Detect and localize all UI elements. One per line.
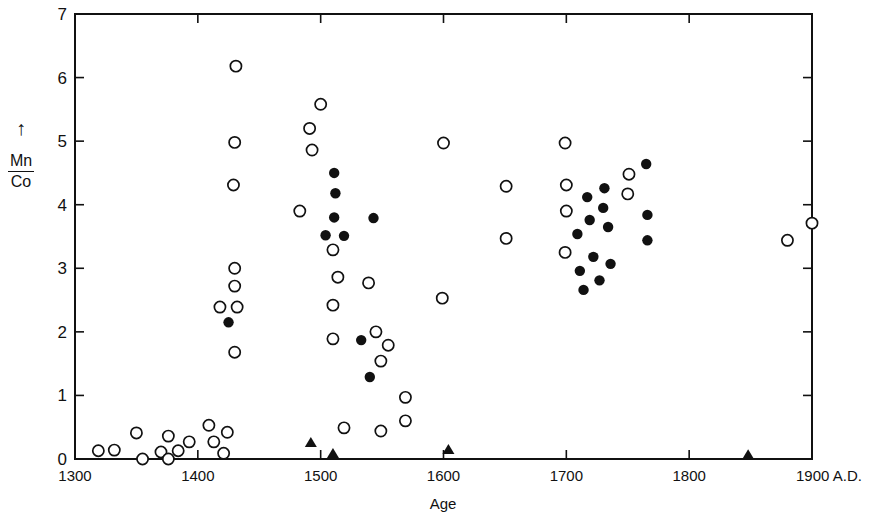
open-circle-point [560, 247, 571, 258]
open-circle-point [109, 445, 120, 456]
open-circle-point [229, 347, 240, 358]
filled-circle-point [356, 335, 366, 345]
open-circle-point [623, 169, 634, 180]
open-circle-point [327, 244, 338, 255]
open-circle-point [363, 277, 374, 288]
x-tick-label: 1300 [58, 467, 91, 484]
open-circle-point [229, 137, 240, 148]
open-circle-point [383, 340, 394, 351]
filled-circle-point [582, 192, 592, 202]
open-circle-point [437, 293, 448, 304]
open-circle-point [375, 356, 386, 367]
open-circle-point [228, 179, 239, 190]
filled-circle-point [598, 203, 608, 213]
filled-circle-point [588, 252, 598, 262]
filled-circle-point [329, 168, 339, 178]
open-circle-point [232, 301, 243, 312]
open-circle-point [375, 425, 386, 436]
y-tick-label: 3 [58, 259, 67, 278]
filled-circle-point [642, 210, 652, 220]
open-circle-point [173, 445, 184, 456]
triangle-point [327, 448, 339, 458]
filled-circle-point [599, 183, 609, 193]
open-circle-point [163, 431, 174, 442]
x-tick-label: 1400 [181, 467, 214, 484]
open-circle-point [501, 233, 512, 244]
filled-circle-point [223, 317, 233, 327]
x-tick-label: 1900 A.D. [796, 467, 862, 484]
open-circle-point [306, 144, 317, 155]
open-circle-point [229, 263, 240, 274]
filled-circle-point [572, 229, 582, 239]
y-tick-label: 2 [58, 323, 67, 342]
triangle-point [305, 437, 317, 447]
filled-circle-point [642, 235, 652, 245]
open-circle-point [214, 301, 225, 312]
open-circle-point [622, 188, 633, 199]
y-tick-label: 5 [58, 132, 67, 151]
x-tick-label: 1500 [304, 467, 337, 484]
open-circle-point [561, 205, 572, 216]
data-points [93, 61, 818, 465]
open-circle-point [230, 61, 241, 72]
filled-circle-point [368, 213, 378, 223]
filled-circle-point [575, 266, 585, 276]
open-circle-point [400, 415, 411, 426]
open-circle-point [229, 280, 240, 291]
open-circle-point [327, 300, 338, 311]
open-circle-point [304, 123, 315, 134]
filled-circle-point [578, 285, 588, 295]
x-tick-label: 1600 [427, 467, 460, 484]
y-tick-labels: 01234567 [58, 5, 67, 469]
open-circle-point [137, 453, 148, 464]
y-tick-label: 1 [58, 386, 67, 405]
open-circle-point [438, 137, 449, 148]
open-circle-point [315, 99, 326, 110]
axis-ticks [75, 14, 812, 459]
filled-circle-point [594, 275, 604, 285]
open-circle-point [400, 392, 411, 403]
filled-circle-point [584, 215, 594, 225]
triangle-point [442, 444, 454, 454]
filled-circle-point [330, 188, 340, 198]
open-circle-point [338, 422, 349, 433]
filled-circle-point [603, 222, 613, 232]
filled-circle-point [605, 259, 615, 269]
open-circle-point [208, 436, 219, 447]
y-tick-label: 6 [58, 69, 67, 88]
open-circle-point [501, 181, 512, 192]
y-tick-label: 7 [58, 5, 67, 24]
filled-circle-point [641, 159, 651, 169]
x-tick-label: 1800 [672, 467, 705, 484]
open-circle-point [184, 436, 195, 447]
filled-circle-point [339, 231, 349, 241]
open-circle-point [93, 445, 104, 456]
open-circle-point [560, 137, 571, 148]
plot-border [75, 14, 812, 459]
open-circle-point [294, 205, 305, 216]
plot-frame [75, 14, 812, 459]
filled-circle-point [329, 212, 339, 222]
open-circle-point [327, 333, 338, 344]
open-circle-point [222, 427, 233, 438]
open-circle-point [806, 218, 817, 229]
open-circle-point [131, 427, 142, 438]
open-circle-point [370, 326, 381, 337]
filled-circle-point [365, 372, 375, 382]
x-tick-label: 1700 [550, 467, 583, 484]
filled-circle-point [320, 230, 330, 240]
scatter-chart: 01234567 1300140015001600170018001900 A.… [0, 0, 878, 516]
open-circle-point [163, 453, 174, 464]
x-tick-labels: 1300140015001600170018001900 A.D. [58, 467, 862, 484]
open-circle-point [203, 420, 214, 431]
x-axis-label: Age [430, 495, 457, 512]
y-tick-label: 4 [58, 196, 67, 215]
open-circle-point [782, 235, 793, 246]
open-circle-point [561, 179, 572, 190]
triangle-point [742, 449, 754, 459]
open-circle-point [332, 272, 343, 283]
open-circle-point [218, 448, 229, 459]
